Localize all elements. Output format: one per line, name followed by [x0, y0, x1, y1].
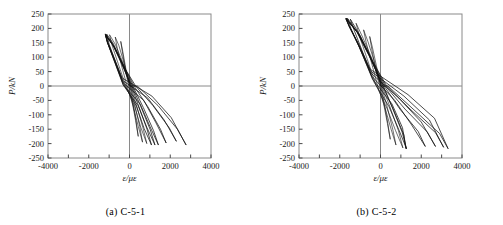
panel-a: -250-200-150-100-50050100150200250-4000-…: [0, 0, 251, 225]
figure-hysteresis-curves: -250-200-150-100-50050100150200250-4000-…: [0, 0, 503, 225]
x-axis-label: ε/με: [122, 173, 137, 183]
x-tick-label: 4000: [203, 161, 220, 171]
x-tick-label: 0: [378, 161, 382, 171]
y-tick-label: 150: [282, 38, 295, 48]
x-tick-label: 4000: [454, 161, 471, 171]
panel-b: -250-200-150-100-50050100150200250-4000-…: [251, 0, 502, 225]
x-tick-label: -4000: [289, 161, 309, 171]
hysteresis-loop: [346, 19, 448, 149]
y-axis-label: P/kN: [7, 76, 17, 96]
y-tick-label: 250: [31, 9, 44, 19]
y-tick-label: -50: [284, 95, 295, 105]
hysteresis-loop: [105, 34, 155, 145]
y-tick-label: 100: [31, 52, 44, 62]
caption-a: (a) C-5-1: [0, 206, 251, 217]
y-tick-label: -150: [28, 124, 44, 134]
y-tick-label: -100: [279, 110, 295, 120]
x-axis-label: ε/με: [373, 173, 388, 183]
y-tick-label: -200: [28, 139, 44, 149]
x-tick-label: -2000: [330, 161, 350, 171]
y-tick-label: 250: [282, 9, 295, 19]
hysteresis-loop: [105, 35, 166, 143]
chart-a: -250-200-150-100-50050100150200250-4000-…: [0, 0, 251, 200]
x-tick-label: 2000: [413, 161, 430, 171]
y-tick-label: -50: [33, 95, 44, 105]
y-tick-label: 50: [287, 67, 296, 77]
y-tick-label: -100: [28, 110, 44, 120]
y-tick-label: -200: [279, 139, 295, 149]
y-tick-label: -150: [279, 124, 295, 134]
y-tick-label: 0: [291, 81, 295, 91]
y-tick-label: 100: [282, 52, 295, 62]
y-tick-label: 50: [36, 67, 45, 77]
y-tick-label: 200: [31, 23, 44, 33]
x-tick-label: -2000: [79, 161, 99, 171]
series-group-b: [346, 18, 448, 149]
chart-b: -250-200-150-100-50050100150200250-4000-…: [251, 0, 502, 200]
x-tick-label: -4000: [38, 161, 58, 171]
x-tick-label: 2000: [162, 161, 179, 171]
x-tick-label: 0: [127, 161, 131, 171]
series-group-a: [105, 34, 186, 145]
caption-b: (b) C-5-2: [251, 206, 502, 217]
y-axis-label: P/kN: [258, 76, 268, 96]
y-tick-label: 200: [282, 23, 295, 33]
y-tick-label: 0: [40, 81, 44, 91]
y-tick-label: 150: [31, 38, 44, 48]
